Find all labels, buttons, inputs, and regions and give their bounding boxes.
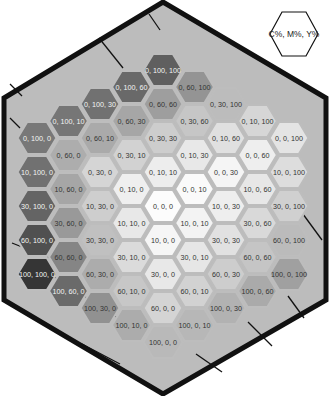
hex-label: 0, 10, 0 (120, 185, 144, 194)
hex-cell: 60, 0, 30 (207, 258, 246, 290)
hex-label: 60, 0, 30 (212, 270, 240, 279)
hex-label: 10, 100, 0 (21, 168, 53, 177)
hex-cell: 30, 0, 0 (144, 258, 183, 290)
hex-label: 100, 0, 60 (242, 287, 274, 296)
hex-cell: 100, 30, 0 (81, 292, 120, 324)
hex-label: 0, 30, 60 (181, 117, 209, 126)
hex-cell: 60, 0, 60 (238, 241, 277, 273)
hex-cell: 0, 100, 30 (81, 88, 120, 120)
hex-cell: 0, 60, 0 (49, 139, 88, 171)
hex-label: 60, 30, 0 (86, 270, 114, 279)
hex-cell: 10, 100, 0 (18, 156, 57, 188)
hex-label: 0, 10, 10 (149, 168, 177, 177)
hex-cell: 30, 10, 0 (112, 241, 151, 273)
hex-cell: 0, 100, 60 (112, 71, 151, 103)
hex-label: 10, 0, 100 (273, 168, 305, 177)
hex-cell: 30, 60, 0 (49, 207, 88, 239)
hex-label: 0, 30, 100 (210, 100, 242, 109)
hex-label: 100, 30, 0 (84, 304, 116, 313)
hex-label: 100, 0, 100 (271, 270, 307, 279)
hex-label: 0, 60, 10 (86, 134, 114, 143)
hex-cell: 0, 30, 0 (81, 156, 120, 188)
hex-label: 100, 100, 0 (19, 270, 55, 279)
cmy-hex-chart: 0, 100, 1000, 100, 600, 60, 1000, 100, 3… (0, 0, 336, 396)
hex-cell: 30, 0, 10 (175, 241, 214, 273)
hex-cell: 0, 10, 30 (175, 139, 214, 171)
hex-cell: 60, 100, 0 (18, 224, 57, 256)
hex-cell: 0, 0, 100 (270, 122, 309, 154)
hex-label: 60, 0, 60 (244, 253, 272, 262)
hex-label: 0, 0, 60 (246, 151, 270, 160)
hex-label: 0, 60, 60 (149, 100, 177, 109)
hex-label: 0, 10, 30 (181, 151, 209, 160)
hex-label: 60, 10, 0 (118, 287, 146, 296)
hex-label: 100, 0, 0 (149, 338, 177, 347)
hex-cell: 100, 0, 10 (175, 309, 214, 341)
hex-label: 10, 10, 0 (118, 219, 146, 228)
hex-cell: 100, 10, 0 (112, 309, 151, 341)
hex-label: 30, 0, 100 (273, 202, 305, 211)
hex-label: 30, 0, 10 (181, 253, 209, 262)
hex-cell: 10, 0, 60 (238, 173, 277, 205)
hex-label: 0, 100, 10 (53, 117, 85, 126)
hex-label: 100, 0, 10 (179, 321, 211, 330)
hex-cell: 0, 0, 30 (207, 156, 246, 188)
hex-label: 0, 30, 0 (88, 168, 112, 177)
hex-label: 30, 0, 0 (151, 270, 175, 279)
hex-cell: 0, 0, 0 (144, 190, 183, 222)
hex-cell: 30, 0, 100 (270, 190, 309, 222)
hex-cell: 60, 0, 100 (270, 224, 309, 256)
hex-label: 30, 10, 0 (118, 253, 146, 262)
hex-cell: 100, 0, 60 (238, 275, 277, 307)
hex-cell: 0, 60, 100 (175, 71, 214, 103)
hex-label: 100, 0, 30 (210, 304, 242, 313)
hex-label: 30, 100, 0 (21, 202, 53, 211)
hex-cell: 0, 10, 0 (112, 173, 151, 205)
hex-label: 30, 60, 0 (55, 219, 83, 228)
hex-cell: 10, 30, 0 (81, 190, 120, 222)
hex-cell: 0, 30, 100 (207, 88, 246, 120)
hex-cell: 0, 10, 100 (238, 105, 277, 137)
hex-label: 0, 100, 0 (23, 134, 51, 143)
hex-label: 60, 0, 0 (151, 304, 175, 313)
legend: C%, M%, Y% (269, 12, 320, 56)
hex-label: 0, 0, 30 (214, 168, 238, 177)
hex-label: 0, 0, 0 (153, 202, 173, 211)
hex-label: 60, 60, 0 (55, 253, 83, 262)
hex-label: 10, 0, 10 (181, 219, 209, 228)
hex-label: 30, 0, 30 (212, 236, 240, 245)
hex-label: 30, 30, 0 (86, 236, 114, 245)
hex-label: 10, 30, 0 (86, 202, 114, 211)
hex-label: 0, 100, 60 (116, 83, 148, 92)
hex-cell: 60, 0, 10 (175, 275, 214, 307)
hex-label: 100, 60, 0 (53, 287, 85, 296)
hex-cell: 0, 30, 30 (144, 122, 183, 154)
hex-cell: 0, 100, 100 (144, 54, 183, 86)
hex-label: 0, 30, 10 (118, 151, 146, 160)
hex-cell: 60, 60, 0 (49, 241, 88, 273)
hex-cell: 100, 0, 30 (207, 292, 246, 324)
hex-label: 0, 60, 100 (179, 83, 211, 92)
hex-label: 30, 0, 60 (244, 219, 272, 228)
hex-label: 0, 0, 100 (275, 134, 303, 143)
hex-cell: 0, 30, 10 (112, 139, 151, 171)
hex-cell: 30, 30, 0 (81, 224, 120, 256)
hex-label: 0, 60, 30 (118, 117, 146, 126)
hex-cell: 0, 100, 10 (49, 105, 88, 137)
hex-cell: 60, 30, 0 (81, 258, 120, 290)
hex-cell: 10, 10, 0 (112, 207, 151, 239)
hex-label: 10, 0, 30 (212, 202, 240, 211)
hex-cell: 10, 0, 0 (144, 224, 183, 256)
hex-cell: 30, 100, 0 (18, 190, 57, 222)
hex-cell: 100, 60, 0 (49, 275, 88, 307)
hex-cell: 60, 10, 0 (112, 275, 151, 307)
hex-cell: 0, 60, 30 (112, 105, 151, 137)
hex-cell: 100, 0, 0 (144, 326, 183, 358)
hex-cell: 0, 0, 60 (238, 139, 277, 171)
hex-label: 0, 0, 10 (183, 185, 207, 194)
hex-cell: 0, 60, 60 (144, 88, 183, 120)
hex-cell: 0, 30, 60 (175, 105, 214, 137)
hex-label: 60, 100, 0 (21, 236, 53, 245)
hex-cell: 10, 0, 30 (207, 190, 246, 222)
hex-cell: 0, 100, 0 (18, 122, 57, 154)
